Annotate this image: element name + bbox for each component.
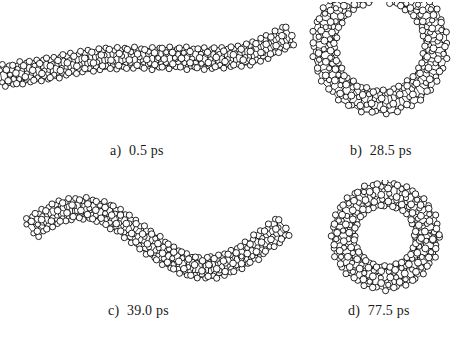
molecule-rendering-c	[10, 182, 300, 294]
caption-panel-d: d) 77.5 ps	[348, 303, 410, 319]
panel-d-structure	[315, 180, 460, 298]
panel-c-structure	[10, 182, 300, 294]
molecule-rendering-a	[0, 14, 300, 124]
caption-panel-c: c) 39.0 ps	[108, 303, 169, 319]
caption-a-label: a)	[110, 143, 121, 158]
molecule-rendering-b	[300, 2, 460, 132]
caption-panel-a: a) 0.5 ps	[110, 143, 164, 159]
caption-d-time: 77.5 ps	[368, 303, 410, 318]
molecule-rendering-d	[315, 180, 460, 298]
panel-b-structure	[300, 2, 460, 132]
caption-panel-b: b) 28.5 ps	[350, 143, 412, 159]
caption-b-time: 28.5 ps	[370, 143, 412, 158]
caption-c-label: c)	[108, 303, 119, 318]
caption-d-label: d)	[348, 303, 360, 318]
panel-a-structure	[0, 14, 300, 124]
molecular-dynamics-figure: a) 0.5 ps b) 28.5 ps c) 39.0 ps d) 77.5 …	[0, 0, 460, 340]
caption-b-label: b)	[350, 143, 362, 158]
caption-c-time: 39.0 ps	[127, 303, 169, 318]
caption-a-time: 0.5 ps	[129, 143, 164, 158]
